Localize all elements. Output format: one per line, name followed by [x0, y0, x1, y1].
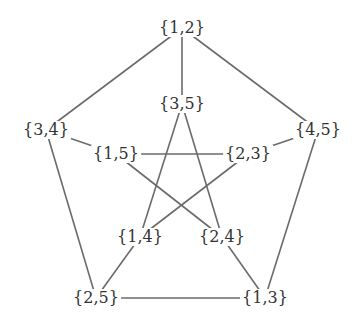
graph-edges — [0, 0, 361, 326]
node-23: {2,3} — [223, 145, 273, 163]
edge-12-45 — [182, 28, 318, 130]
node-25: {2,5} — [71, 289, 121, 307]
node-34: {3,4} — [21, 121, 71, 139]
node-45: {4,5} — [293, 121, 343, 139]
petersen-graph-diagram: {1,2}{3,5}{3,4}{4,5}{1,5}{2,3}{1,4}{2,4}… — [0, 0, 361, 326]
edge-35-14 — [140, 104, 182, 237]
node-12: {1,2} — [157, 19, 207, 37]
edge-15-24 — [116, 154, 222, 237]
edge-35-24 — [182, 104, 222, 237]
node-24: {2,4} — [197, 228, 247, 246]
edge-23-14 — [140, 154, 248, 237]
edge-45-13 — [265, 130, 318, 298]
node-35: {3,5} — [157, 95, 207, 113]
node-13: {1,3} — [240, 289, 290, 307]
edge-12-34 — [46, 28, 182, 130]
edge-34-25 — [46, 130, 96, 298]
node-14: {1,4} — [115, 228, 165, 246]
node-15: {1,5} — [91, 145, 141, 163]
